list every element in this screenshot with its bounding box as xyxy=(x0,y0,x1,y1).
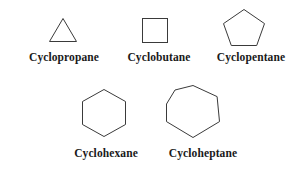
cycloalkane-figure: Cyclopropane Cyclobutane Cyclopentane Cy… xyxy=(0,0,302,169)
shape-label-cyclopentane: Cyclopentane xyxy=(203,51,299,63)
shape-label-cyclopropane: Cyclopropane xyxy=(14,51,114,63)
pentagon-icon xyxy=(222,8,266,47)
square-icon xyxy=(141,17,169,44)
triangle-icon xyxy=(48,17,78,43)
shape-label-cyclohexane: Cyclohexane xyxy=(58,147,154,159)
shape-label-cycloheptane: Cycloheptane xyxy=(153,147,253,159)
hexagon-icon xyxy=(80,88,128,138)
shape-label-cyclobutane: Cyclobutane xyxy=(114,51,204,63)
heptagon-icon xyxy=(165,84,221,139)
